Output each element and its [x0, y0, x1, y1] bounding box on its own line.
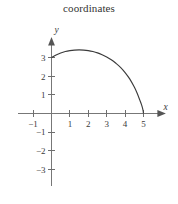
- y-tick-label: 1: [41, 90, 46, 100]
- y-tick-label: −1: [36, 127, 46, 137]
- y-axis-arrow-icon: [48, 37, 55, 46]
- x-axis-tick-labels: −112345: [28, 119, 146, 129]
- x-tick-label: 1: [68, 119, 73, 129]
- coordinates-figure: coordinates −112345 −3−2−1123 x y: [0, 0, 178, 204]
- y-axis-label: y: [54, 25, 60, 35]
- x-tick-label: 3: [104, 119, 109, 129]
- y-tick-label: −2: [36, 146, 46, 156]
- data-curve: [52, 50, 144, 114]
- y-tick-label: 3: [41, 53, 46, 63]
- x-tick-label: 2: [86, 119, 91, 129]
- coordinate-plot: −112345 −3−2−1123 x y: [0, 0, 178, 204]
- x-tick-label: 5: [141, 119, 146, 129]
- x-tick-label: 4: [123, 119, 128, 129]
- y-tick-label: −3: [36, 165, 46, 175]
- y-tick-label: 2: [41, 72, 46, 82]
- x-axis-label: x: [162, 102, 168, 112]
